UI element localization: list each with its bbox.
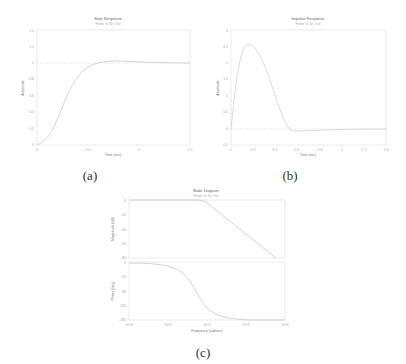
caption-a: (a) — [70, 168, 110, 184]
svg-text:0: 0 — [32, 143, 34, 147]
chart-title: Bode Diagram — [193, 188, 219, 193]
svg-text:-180: -180 — [119, 318, 126, 322]
svg-text:0.5: 0.5 — [86, 148, 91, 152]
x-axis-label: Frequency (rad/sec) — [191, 329, 222, 333]
magnitude-y-label: Magnitude (dB) — [111, 217, 115, 241]
phase-y-ticks: 0 -45 -90 -135 -180 — [119, 261, 126, 322]
plot-area — [37, 30, 190, 145]
svg-text:0.8: 0.8 — [318, 148, 323, 152]
y-ticks: -0.5 0 0.5 1 1.5 2 2.5 3 — [222, 29, 228, 147]
svg-text:1.5: 1.5 — [223, 77, 228, 81]
svg-text:-90: -90 — [121, 290, 126, 294]
svg-text:10^3: 10^3 — [242, 323, 250, 327]
bode-diagram-chart: Bode Diagram From: In To: Out 0 -20 -40 … — [100, 185, 310, 345]
x-ticks: 0 0.2 0.4 0.6 0.8 1 1.2 1.4 — [230, 148, 388, 152]
svg-text:10^2: 10^2 — [203, 323, 211, 327]
chart-subtitle: From: In To: Out — [193, 194, 218, 198]
svg-text:0: 0 — [226, 127, 228, 131]
y-ticks: 0 0.2 0.4 0.6 0.8 1 1.2 1.4 — [29, 29, 34, 147]
x-ticks: 0 0.5 1 1.5 — [36, 148, 192, 152]
phase-plot-area — [129, 262, 285, 320]
x-ticks: 10^0 10^1 10^2 10^3 10^4 — [125, 323, 289, 327]
svg-text:10^4: 10^4 — [281, 323, 289, 327]
svg-text:1.5: 1.5 — [188, 148, 193, 152]
svg-text:1.4: 1.4 — [384, 148, 389, 152]
magnitude-curve — [129, 200, 276, 258]
chart-title: Step Response — [94, 16, 122, 21]
svg-text:1: 1 — [138, 148, 140, 152]
svg-text:-20: -20 — [121, 213, 126, 217]
svg-text:-40: -40 — [121, 228, 126, 232]
step-curve — [37, 61, 190, 145]
svg-text:-0.5: -0.5 — [222, 143, 228, 147]
svg-text:1: 1 — [226, 94, 228, 98]
svg-text:-60: -60 — [121, 242, 126, 246]
phase-y-label: Phase (deg) — [111, 281, 115, 300]
svg-text:-80: -80 — [121, 256, 126, 260]
svg-text:1.4: 1.4 — [29, 29, 34, 33]
svg-text:0.2: 0.2 — [251, 148, 256, 152]
x-axis-label: Time (sec) — [300, 153, 316, 157]
svg-text:0: 0 — [124, 199, 126, 203]
svg-text:0.4: 0.4 — [273, 148, 278, 152]
svg-text:1: 1 — [32, 61, 34, 65]
chart-subtitle: From: In To: Out — [95, 22, 120, 26]
svg-text:1.2: 1.2 — [29, 45, 34, 49]
svg-text:0.5: 0.5 — [223, 110, 228, 114]
impulse-curve — [231, 44, 386, 131]
svg-text:0.4: 0.4 — [29, 110, 34, 114]
impulse-response-chart: Impulse Response From: In To: Out -0.5 0… — [205, 0, 405, 165]
caption-b: (b) — [270, 168, 310, 184]
svg-text:10^0: 10^0 — [125, 323, 133, 327]
y-axis-label: Amplitude — [216, 80, 220, 96]
magnitude-plot-area — [129, 200, 285, 258]
svg-text:-45: -45 — [121, 275, 126, 279]
svg-text:2.5: 2.5 — [223, 45, 228, 49]
svg-text:0: 0 — [230, 148, 232, 152]
y-axis-label: Amplitude — [21, 80, 25, 96]
svg-text:0.2: 0.2 — [29, 127, 34, 131]
step-response-chart: Step Response From: In To: Out 0 0.2 0.4… — [0, 0, 200, 165]
svg-text:0.8: 0.8 — [29, 77, 34, 81]
svg-text:3: 3 — [226, 29, 228, 33]
magnitude-y-ticks: 0 -20 -40 -60 -80 — [121, 199, 126, 260]
svg-text:0.6: 0.6 — [29, 94, 34, 98]
caption-c: (c) — [183, 345, 223, 361]
phase-curve — [129, 263, 285, 320]
svg-text:0: 0 — [36, 148, 38, 152]
chart-title: Impulse Response — [291, 16, 325, 21]
svg-text:0: 0 — [124, 261, 126, 265]
chart-subtitle: From: In To: Out — [295, 22, 320, 26]
svg-text:10^1: 10^1 — [164, 323, 172, 327]
x-axis-label: Time (sec) — [105, 153, 121, 157]
svg-text:1: 1 — [341, 148, 343, 152]
svg-text:-135: -135 — [119, 304, 126, 308]
svg-text:0.6: 0.6 — [295, 148, 300, 152]
svg-text:1.2: 1.2 — [362, 148, 367, 152]
svg-text:2: 2 — [226, 61, 228, 65]
